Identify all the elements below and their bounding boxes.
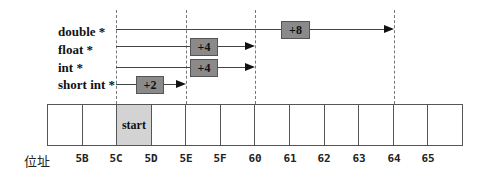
arrowhead-icon [245,42,255,50]
address-label: 61 [275,152,305,165]
arrowhead-icon [384,25,394,33]
memory-cell [428,105,462,145]
step-box-short-int: +2 [136,76,164,94]
memory-cell [221,105,256,145]
arrow-line-float [116,46,247,47]
memory-cell [255,105,290,145]
address-label: 64 [379,152,409,165]
arrow-line-int [116,67,247,68]
pointer-arithmetic-diagram: double * +8 float * +4 int * +4 short in… [0,0,486,176]
pointer-label-float: float * [58,43,93,57]
arrowhead-icon [245,63,255,71]
pointer-label-double: double * [58,25,105,39]
address-label: 63 [344,152,374,165]
dashed-marker-5c [116,10,117,104]
address-label: 5F [205,152,235,165]
arrowhead-icon [176,80,186,88]
address-axis-title: 位址 [24,151,50,170]
address-label: 5B [67,152,97,165]
step-box-float: +4 [190,38,218,56]
memory-cell [48,105,83,145]
pointer-label-int: int * [58,61,83,75]
memory-cell [325,105,360,145]
pointer-label-short-int: short int * [58,78,115,92]
memory-cell [152,105,187,145]
memory-row: start [47,104,463,146]
dashed-marker-5e [186,10,187,104]
memory-cell-start: start [117,105,152,145]
memory-cell [394,105,429,145]
step-box-double: +8 [281,21,310,39]
memory-cell [290,105,325,145]
step-box-int: +4 [190,59,218,77]
memory-cell [83,105,118,145]
address-label: 5D [136,152,166,165]
memory-cell [186,105,221,145]
dashed-marker-64 [394,10,395,104]
address-label: 5C [101,152,131,165]
address-label: 62 [309,152,339,165]
address-label: 5E [171,152,201,165]
address-label: 65 [413,152,443,165]
dashed-marker-60 [255,10,256,104]
arrow-line-double [116,29,386,30]
address-label: 60 [240,152,270,165]
memory-cell [359,105,394,145]
